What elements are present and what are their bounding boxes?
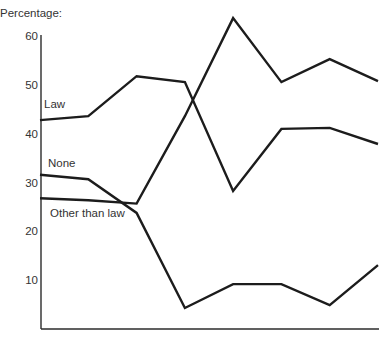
y-tick-label: 60 <box>25 30 38 42</box>
series-line-other-than-law <box>40 18 378 204</box>
y-axis-title: Percentage: <box>0 7 62 19</box>
y-tick-label: 50 <box>25 79 38 91</box>
series-group <box>40 18 378 308</box>
series-label-law: Law <box>44 98 66 110</box>
y-tick-label: 10 <box>25 274 38 286</box>
series-label-none: None <box>48 157 76 169</box>
line-chart: Percentage: 102030405060 Law None Other … <box>0 0 392 341</box>
series-label-other-than-law: Other than law <box>50 207 125 219</box>
series-line-law <box>40 76 378 191</box>
y-tick-label: 40 <box>25 128 38 140</box>
y-tick-labels: 102030405060 <box>25 30 38 286</box>
series-line-none <box>40 175 378 308</box>
y-tick-label: 30 <box>25 177 38 189</box>
y-tick-label: 20 <box>25 225 38 237</box>
